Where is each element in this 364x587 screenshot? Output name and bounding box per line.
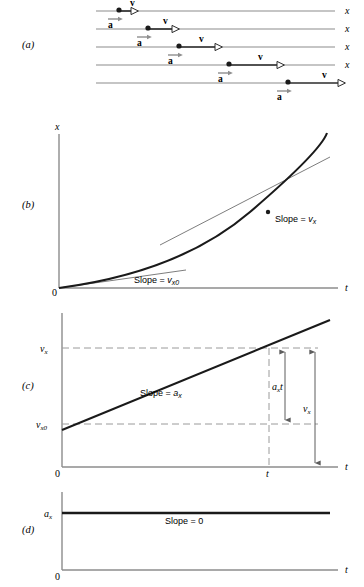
particle-dot [285,79,290,84]
x-axis-label: t [345,282,348,293]
motion-row-2: v a x [96,16,350,48]
bracket-label-vx: vx [303,403,311,416]
panel-a: (a) v a x v a x v a [22,0,350,102]
motion-row-1: v a x [96,0,350,30]
panel-c-label: (c) [22,380,34,392]
y-tick-label-vx: vx [40,343,48,356]
slope-zero-label: Slope = 0 [165,516,203,526]
slope-vx0-label: Slope = vx0 [134,275,179,286]
motion-row-5: v a [96,70,338,102]
origin-label: 0 [52,287,57,298]
particle-dot [145,25,150,30]
position-curve [59,133,327,288]
tangent-line-later [160,157,330,245]
origin-label: 0 [55,468,60,479]
panel-b: (b) x t 0 Slope = vx Slope = vx0 [22,121,348,298]
y-axis-label: x [54,121,60,132]
x-axis-label: t [345,564,348,575]
y-tick-label-vx0: vx0 [36,419,48,432]
y-tick-label-ax: ax [44,508,53,521]
x-axis-label: t [345,461,348,472]
velocity-label: v [258,52,263,62]
slope-ax-label: Slope = ax [140,388,182,399]
particle-dot [116,7,121,12]
panel-c: (c) t 0 vx vx0 t Slope = ax axt vx [22,313,348,479]
axis-label-x: x [344,5,350,16]
motion-row-4: v a x [96,52,350,84]
axis-label-x: x [344,59,350,70]
tangent-point-dot [266,210,270,214]
velocity-label: v [322,70,327,80]
velocity-label: v [130,0,135,8]
velocity-line [62,320,330,430]
axis-label-x: x [344,41,350,52]
acceleration-label: a [277,92,282,102]
origin-label: 0 [55,571,60,582]
velocity-label: v [199,34,204,44]
panel-d: (d) t 0 ax Slope = 0 [22,492,348,582]
x-tick-label-t: t [266,468,269,479]
bracket-label-axt: axt [272,381,283,394]
velocity-label: v [163,16,168,26]
particle-dot [226,61,231,66]
motion-row-3: v a x [96,34,350,66]
panel-b-label: (b) [22,199,35,211]
axis-label-x: x [344,23,350,34]
slope-vx-label: Slope = vx [275,214,317,225]
kinematics-figure: (a) v a x v a x v a [0,0,364,587]
panel-a-label: (a) [22,39,35,51]
panel-d-label: (d) [22,524,35,536]
particle-dot [176,43,181,48]
